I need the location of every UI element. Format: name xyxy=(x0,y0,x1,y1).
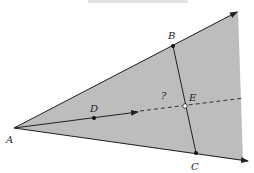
geometry-diagram: A B C D E ? xyxy=(0,0,254,173)
label-e: E xyxy=(188,92,197,103)
label-a: A xyxy=(5,134,13,145)
point-c xyxy=(194,151,198,155)
point-d xyxy=(92,116,96,120)
point-b xyxy=(171,44,175,48)
point-e-open xyxy=(183,104,188,109)
cut-off-caption xyxy=(88,0,188,3)
label-c: C xyxy=(191,161,199,172)
label-b: B xyxy=(167,30,175,41)
diagram-svg: A B C D E ? xyxy=(0,0,254,173)
angle-region xyxy=(14,11,243,161)
label-d: D xyxy=(89,103,98,114)
question-mark: ? xyxy=(161,90,167,101)
